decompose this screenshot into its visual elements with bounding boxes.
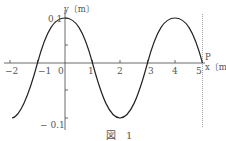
x-tick-label-3: 3 — [148, 66, 154, 76]
x-tick-label-neg1: −1 — [38, 66, 51, 76]
y-ticks — [65, 18, 68, 118]
y-tick-top-label: 0.1 — [48, 14, 62, 24]
x-tick-label-0: 0 — [58, 66, 64, 76]
x-tick-label-5: 5 — [196, 66, 202, 76]
x-tick-label-4: 4 — [172, 66, 178, 76]
point-p-label: P — [205, 52, 211, 62]
x-tick-label-neg2: −2 — [5, 66, 18, 76]
x-tick-label-2: 2 — [117, 66, 123, 76]
y-axis-label: y〔m〕 — [63, 4, 95, 14]
figure-caption: 図 1 — [106, 130, 132, 141]
y-tick-bottom-label: − 0.1 — [40, 120, 65, 130]
wave-figure: 0.1 − 0.1 y〔m〕 −2 −1 0 1 2 3 4 5 P x〔m〕 … — [0, 0, 226, 141]
x-tick-label-1: 1 — [88, 66, 94, 76]
x-axis-label: x〔m〕 — [205, 62, 226, 72]
